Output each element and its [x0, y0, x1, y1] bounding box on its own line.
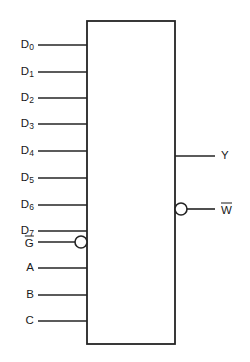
input-label-g: G [25, 236, 34, 249]
input-label-text-d6: D [21, 198, 30, 210]
diagram-canvas [0, 0, 250, 362]
logic-diagram: D0D1D2D3D4D5D6D7GABCYW [0, 0, 250, 362]
input-label-d1: D1 [21, 66, 34, 79]
output-label-w: W [221, 203, 232, 216]
input-label-b: B [26, 289, 34, 301]
input-label-d6: D6 [21, 199, 34, 212]
output-label-text-y: Y [221, 149, 229, 161]
input-label-text-d3: D [21, 117, 30, 129]
input-label-d4: D4 [21, 145, 34, 158]
input-label-text-d5: D [21, 171, 30, 183]
input-label-text-d0: D [21, 38, 30, 50]
input-label-d3: D3 [21, 118, 34, 131]
w-bubble [175, 203, 187, 215]
input-label-d2: D2 [21, 92, 34, 105]
input-label-text-a: A [26, 261, 34, 273]
input-label-text-d1: D [21, 65, 30, 77]
input-label-subscript-d1: 1 [29, 69, 34, 79]
component-body [87, 21, 175, 344]
output-label-text-w: W [221, 203, 232, 216]
input-label-text-d2: D [21, 91, 30, 103]
input-label-a: A [26, 262, 34, 274]
output-label-y: Y [221, 150, 229, 162]
input-label-text-c: C [25, 314, 34, 326]
input-label-subscript-d0: 0 [29, 42, 34, 52]
input-label-d5: D5 [21, 172, 34, 185]
input-label-subscript-d2: 2 [29, 95, 34, 105]
input-label-text-d4: D [21, 144, 30, 156]
input-label-text-d7: D [21, 224, 30, 236]
g-bubble [75, 236, 87, 248]
input-label-d0: D0 [21, 39, 34, 52]
input-label-subscript-d3: 3 [29, 121, 34, 131]
input-label-c: C [25, 315, 34, 327]
input-label-subscript-d5: 5 [29, 175, 34, 185]
input-label-subscript-d4: 4 [29, 148, 34, 158]
input-label-text-b: B [26, 288, 34, 300]
input-label-subscript-d6: 6 [29, 202, 34, 212]
input-label-text-g: G [25, 236, 34, 249]
